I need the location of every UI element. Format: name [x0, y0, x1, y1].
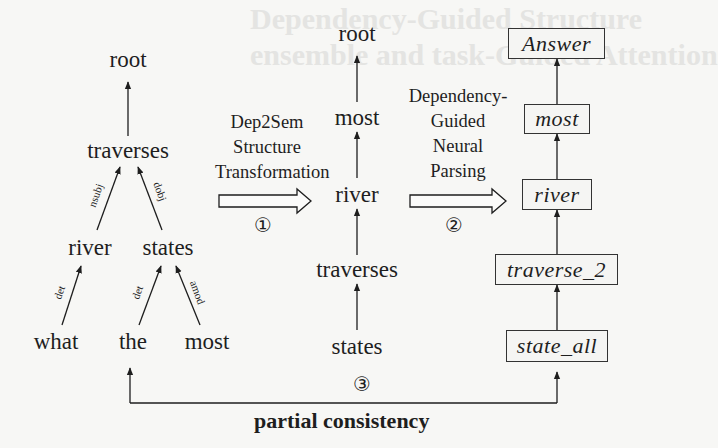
sem-node-river: river	[522, 179, 592, 210]
step1-arrow	[219, 189, 311, 213]
step2-label-line1: Dependency-	[406, 84, 510, 109]
step1-label: Dep2Sem Structure Transformation	[215, 110, 319, 185]
dep-node-the: the	[119, 330, 147, 353]
step2-label: Dependency- Guided Neural Parsing	[406, 84, 510, 184]
step2-label-line4: Parsing	[406, 159, 510, 184]
dep-node-what: what	[34, 330, 79, 353]
partial-consistency-caption: partial consistency	[254, 408, 429, 434]
mid-node-traverses: traverses	[316, 258, 398, 281]
mid-node-states: states	[331, 335, 382, 358]
sem-node-answer: Answer	[508, 28, 605, 59]
step2-number: ②	[445, 215, 463, 235]
mid-node-root: root	[338, 22, 375, 45]
step3-number: ③	[353, 374, 371, 394]
step2-arrow	[410, 189, 506, 213]
step1-number: ①	[254, 215, 272, 235]
step2-label-line2: Guided	[406, 109, 510, 134]
mid-node-most: most	[335, 106, 380, 129]
sem-node-traverse-2: traverse_2	[495, 254, 618, 285]
dep-node-traverses: traverses	[87, 139, 169, 162]
dep-node-most: most	[185, 330, 230, 353]
step1-label-line1: Dep2Sem	[215, 110, 319, 135]
dep-node-states: states	[142, 236, 193, 259]
step1-label-line2: Structure	[215, 135, 319, 160]
dep-node-river: river	[68, 236, 111, 259]
mid-node-river: river	[335, 183, 378, 206]
sem-node-state-all: state_all	[506, 330, 608, 362]
step1-label-line3: Transformation	[215, 160, 319, 185]
sem-node-most: most	[524, 104, 590, 134]
step2-label-line3: Neural	[406, 134, 510, 159]
edge-det-what	[62, 266, 81, 325]
dep-node-root: root	[109, 48, 146, 71]
